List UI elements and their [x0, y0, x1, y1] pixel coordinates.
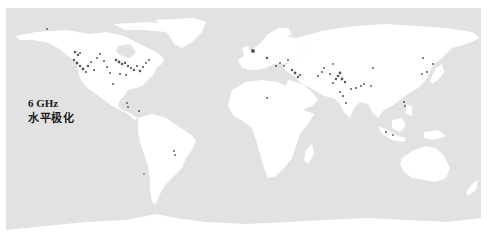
rfi-point [432, 63, 434, 65]
rfi-point [329, 73, 331, 75]
rfi-point [76, 62, 79, 65]
rfi-point [136, 65, 138, 67]
rfi-point [385, 131, 387, 133]
rfi-point [79, 52, 81, 54]
rfi-point [174, 154, 176, 156]
rfi-point [106, 66, 108, 68]
rfi-point [291, 69, 293, 71]
rfi-point [422, 57, 424, 59]
rfi-point [370, 85, 372, 87]
rfi-point [283, 65, 285, 67]
rfi-point [332, 63, 334, 65]
rfi-point [99, 53, 101, 55]
frequency-label: 6 GHz [28, 95, 74, 111]
rfi-point [421, 73, 423, 75]
rfi-point [138, 110, 140, 112]
rfi-point [266, 57, 268, 59]
rfi-point [46, 28, 48, 30]
rfi-point [372, 67, 374, 69]
rfi-point [93, 69, 95, 71]
rfi-point [339, 91, 341, 93]
map-label: 6 GHz 水平极化 [28, 95, 74, 127]
rfi-point [360, 85, 362, 87]
rfi-point [392, 134, 394, 136]
rfi-point [317, 75, 319, 77]
rfi-point [73, 59, 75, 61]
rfi-point [341, 78, 344, 81]
rfi-point [103, 60, 105, 62]
land-new-zealand [466, 180, 478, 196]
landmasses [6, 18, 481, 241]
rfi-point [279, 62, 281, 64]
land-antarctica [6, 214, 481, 241]
rfi-point [148, 59, 150, 61]
rfi-point [345, 102, 347, 104]
rfi-point [82, 68, 85, 71]
rfi-point [287, 59, 289, 61]
map-canvas [6, 8, 481, 241]
rfi-point [79, 65, 81, 67]
rfi-point [119, 73, 121, 75]
rfi-point [266, 97, 268, 99]
rfi-point [139, 70, 142, 73]
rfi-point [77, 54, 79, 56]
rfi-point [133, 69, 135, 71]
rfi-point [112, 83, 114, 85]
rfi-point [115, 59, 118, 62]
rfi-point [121, 63, 124, 66]
rfi-point [337, 75, 340, 78]
land-philippines [406, 104, 412, 116]
world-map: 6 GHz 水平极化 [6, 8, 481, 241]
rfi-point [251, 49, 255, 53]
rfi-point [127, 65, 129, 67]
rfi-point [142, 66, 144, 68]
rfi-point [130, 67, 132, 69]
rfi-point [143, 173, 145, 175]
rfi-point [342, 95, 344, 97]
rfi-point [275, 65, 277, 67]
land-south-america [138, 114, 196, 204]
rfi-point [344, 81, 346, 83]
rfi-point [126, 102, 128, 104]
land-australia [400, 146, 450, 182]
rfi-point [118, 61, 121, 64]
rfi-point [127, 106, 129, 108]
land-madagascar [304, 144, 314, 164]
rfi-point [90, 61, 92, 63]
rfi-point [299, 74, 301, 76]
rfi-point [109, 72, 111, 74]
rfi-point [426, 71, 428, 73]
rfi-point [323, 67, 325, 69]
rfi-point [294, 72, 297, 75]
rfi-point [363, 83, 365, 85]
rfi-point [339, 72, 342, 75]
land-new-guinea [424, 130, 446, 140]
rfi-point [124, 62, 126, 64]
rfi-point [321, 71, 323, 73]
rfi-point [125, 74, 127, 76]
rfi-point [85, 71, 87, 73]
rfi-point [404, 105, 406, 107]
rfi-point [350, 88, 352, 90]
rfi-point [173, 150, 175, 152]
rfi-point [335, 78, 337, 80]
rfi-point [87, 65, 89, 67]
rfi-point [145, 62, 147, 64]
land-borneo [392, 118, 406, 132]
rfi-point [297, 76, 299, 78]
rfi-point [74, 51, 77, 54]
polarization-label: 水平极化 [28, 111, 74, 127]
rfi-point [355, 87, 357, 89]
rfi-point [96, 57, 98, 59]
land-greenland [156, 18, 206, 48]
rfi-point [403, 101, 405, 103]
rfi-point [332, 82, 334, 84]
